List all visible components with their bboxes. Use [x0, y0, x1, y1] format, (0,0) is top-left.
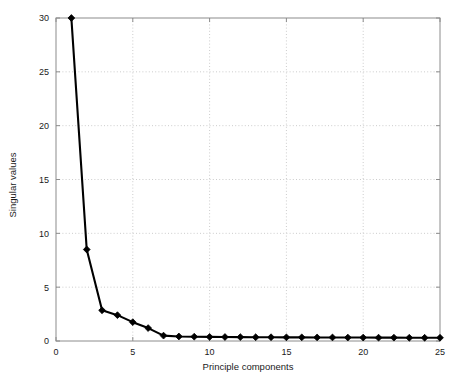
x-axis-tick-labels: 0510152025	[53, 347, 445, 357]
singular-values-line-chart: 0510152025 051015202530 Principle compon…	[0, 0, 462, 385]
x-tick-label: 20	[358, 347, 368, 357]
y-tick-label: 25	[39, 67, 49, 77]
x-tick-label: 25	[435, 347, 445, 357]
x-tick-label: 10	[205, 347, 215, 357]
y-tick-label: 5	[44, 283, 49, 293]
y-tick-label: 10	[39, 229, 49, 239]
y-axis-tick-labels: 051015202530	[39, 13, 49, 346]
x-axis-title: Principle components	[203, 361, 294, 372]
y-tick-label: 30	[39, 13, 49, 23]
y-tick-label: 15	[39, 175, 49, 185]
y-tick-label: 20	[39, 121, 49, 131]
y-axis-title: Singular values	[7, 152, 18, 217]
x-tick-label: 0	[53, 347, 58, 357]
figure-canvas: 0510152025 051015202530 Principle compon…	[0, 0, 462, 385]
x-tick-label: 15	[281, 347, 291, 357]
y-tick-label: 0	[44, 336, 49, 346]
x-tick-label: 5	[130, 347, 135, 357]
